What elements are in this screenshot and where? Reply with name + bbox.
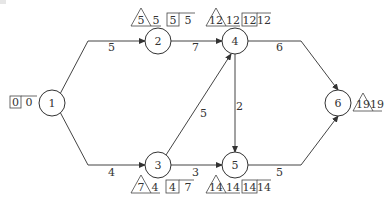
- edges: [60, 41, 338, 165]
- svg-text:12: 12: [209, 14, 223, 27]
- node-4-time-box: 12 12: [242, 13, 271, 27]
- edge-label-4-6: 6: [276, 41, 283, 54]
- network-diagram: 5 4 7 5 3 2 6 5 1 2 3 4 5 6 0 0: [0, 0, 387, 211]
- node-6: 6: [325, 90, 351, 116]
- svg-text:14: 14: [226, 181, 240, 194]
- node-label: 3: [155, 159, 162, 172]
- edge-3-4: [166, 54, 231, 155]
- node-2-time-box: 5 5: [167, 13, 195, 27]
- edge-label-4-5: 2: [236, 100, 243, 113]
- node-4: 4: [222, 28, 248, 54]
- svg-text:5: 5: [153, 14, 160, 27]
- node-6-triangle: 19 19: [353, 93, 384, 111]
- node-5: 5: [222, 152, 248, 178]
- node-1-time-box: 0 0: [10, 96, 37, 109]
- corner-mark: [0, 0, 6, 4]
- svg-text:12: 12: [257, 14, 271, 27]
- svg-text:0: 0: [12, 96, 19, 109]
- node-label: 6: [335, 97, 342, 110]
- svg-text:4: 4: [169, 181, 176, 194]
- edge-4-6: [248, 41, 338, 90]
- svg-text:5: 5: [138, 14, 145, 27]
- edge-label-5-6: 5: [276, 166, 283, 179]
- svg-text:7: 7: [138, 181, 145, 194]
- svg-text:14: 14: [243, 181, 257, 194]
- svg-text:5: 5: [185, 14, 192, 27]
- node-label: 5: [232, 159, 239, 172]
- svg-text:5: 5: [170, 14, 177, 27]
- svg-text:14: 14: [257, 181, 271, 194]
- node-1: 1: [39, 90, 65, 116]
- edge-label-2-4: 7: [192, 41, 199, 54]
- node-label: 1: [49, 97, 56, 110]
- node-5-time-box: 14 14: [242, 180, 271, 194]
- node-label: 2: [155, 35, 162, 48]
- edge-label-3-5: 3: [192, 166, 199, 179]
- edge-label-1-3: 4: [108, 166, 115, 179]
- svg-text:14: 14: [209, 181, 223, 194]
- edge-1-2: [60, 41, 145, 94]
- node-4-triangle: 12 12: [206, 8, 240, 27]
- node-3: 3: [145, 152, 171, 178]
- node-2-triangle: 5 5: [131, 8, 161, 27]
- edge-1-3: [60, 112, 145, 165]
- edge-label-3-4: 5: [200, 107, 207, 120]
- node-2: 2: [145, 28, 171, 54]
- svg-text:12: 12: [226, 14, 240, 27]
- node-3-time-box: 4 7: [166, 180, 194, 194]
- svg-text:0: 0: [26, 96, 33, 109]
- svg-text:19: 19: [356, 98, 370, 111]
- edge-5-6: [248, 116, 338, 165]
- svg-text:4: 4: [152, 181, 159, 194]
- edge-label-1-2: 5: [108, 41, 115, 54]
- node-label: 4: [232, 35, 239, 48]
- svg-text:12: 12: [243, 14, 257, 27]
- svg-text:7: 7: [185, 181, 192, 194]
- svg-text:19: 19: [370, 98, 384, 111]
